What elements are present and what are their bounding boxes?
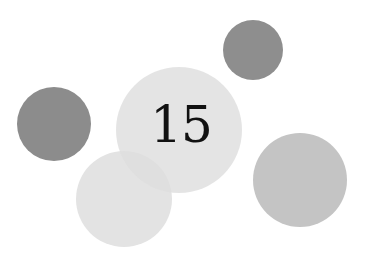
right-mid-circle bbox=[253, 133, 347, 227]
chapter-number-graphic: 15 bbox=[0, 0, 366, 263]
top-right-dark-circle bbox=[223, 20, 283, 80]
chapter-number: 15 bbox=[150, 100, 212, 150]
left-dark-circle bbox=[17, 87, 91, 161]
